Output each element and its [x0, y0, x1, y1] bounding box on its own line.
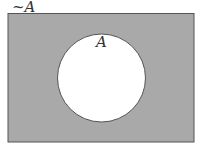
venn-diagram: ~A A	[0, 0, 197, 145]
complement-label: ~A	[12, 0, 36, 16]
set-a-label: A	[94, 33, 107, 51]
